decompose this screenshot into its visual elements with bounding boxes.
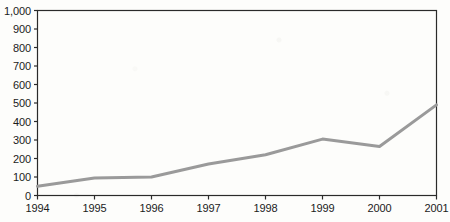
y-axis-tick-label: 800 — [0, 42, 31, 54]
x-axis-ticks — [38, 196, 437, 200]
y-axis-tick-label: 400 — [0, 116, 31, 128]
data-series-group — [38, 105, 437, 186]
x-axis-tick-label: 2001 — [424, 202, 448, 214]
y-axis-tick-label: 1,000 — [0, 5, 31, 17]
x-axis-tick-label: 1995 — [82, 202, 106, 214]
x-axis-tick-label: 2000 — [367, 202, 391, 214]
y-axis-tick-label: 900 — [0, 23, 31, 35]
y-axis-tick-label: 300 — [0, 134, 31, 146]
y-axis-tick-label: 700 — [0, 60, 31, 72]
x-axis-tick-label: 1998 — [253, 202, 277, 214]
y-axis-tick-label: 100 — [0, 171, 31, 183]
x-axis-tick-label: 1996 — [139, 202, 163, 214]
plot-frame — [38, 11, 437, 196]
y-axis-tick-label: 500 — [0, 97, 31, 109]
chart-plot-area — [0, 0, 450, 222]
line-chart: 01002003004005006007008009001,000 199419… — [0, 0, 450, 222]
y-axis-tick-label: 200 — [0, 153, 31, 165]
x-axis-tick-label: 1999 — [310, 202, 334, 214]
x-axis-tick-label: 1994 — [25, 202, 49, 214]
y-axis-tick-label: 600 — [0, 79, 31, 91]
y-axis-tick-label: 0 — [0, 190, 31, 202]
x-axis-tick-label: 1997 — [196, 202, 220, 214]
